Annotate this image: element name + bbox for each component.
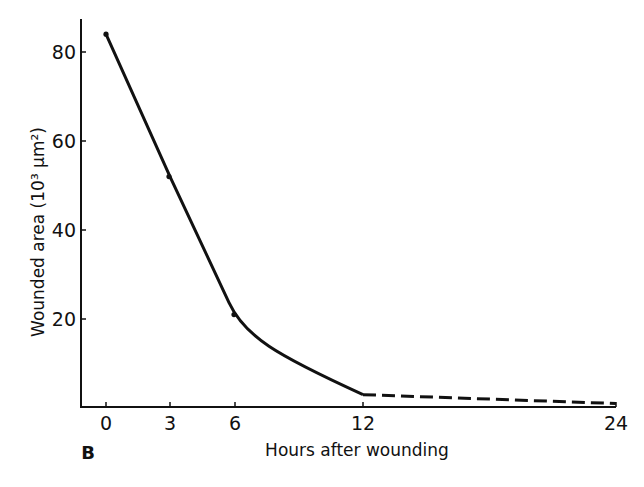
data-series — [103, 32, 616, 404]
x-tick-label: 24 — [604, 412, 628, 434]
dashed-line — [363, 395, 616, 404]
y-tick-label: 80 — [52, 41, 76, 63]
axes — [80, 19, 616, 407]
x-tick-label: 3 — [164, 412, 176, 434]
y-tick-label: 20 — [52, 308, 76, 330]
x-tick-label: 6 — [229, 412, 241, 434]
axis-ticks: 204060800361224 — [52, 41, 628, 434]
data-point — [103, 32, 108, 37]
x-axis-label: Hours after wounding — [265, 440, 449, 460]
x-tick-label: 12 — [351, 412, 375, 434]
data-point — [231, 312, 236, 317]
y-tick-label: 60 — [52, 130, 76, 152]
y-axis-label: Wounded area (10³ μm²) — [28, 127, 48, 337]
x-tick-label: 0 — [100, 412, 112, 434]
panel-letter: B — [81, 442, 95, 463]
y-tick-label: 40 — [52, 219, 76, 241]
solid-line — [106, 34, 363, 394]
line-chart: 204060800361224 Wounded area (10³ μm²) H… — [0, 0, 644, 487]
data-point — [166, 174, 171, 179]
